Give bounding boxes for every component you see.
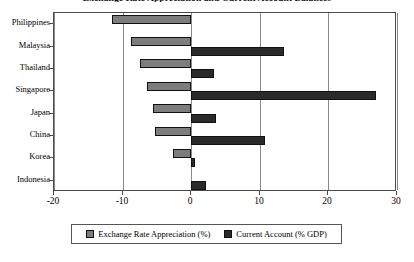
y-axis-category-labels: PhilippinesMalaysiaThailandSingaporeJapa… — [0, 12, 50, 191]
x-tick-10 — [259, 191, 260, 195]
bar-korea-series-1 — [191, 158, 195, 167]
bar-thailand-series-0 — [140, 59, 191, 68]
x-tick-label--20: -20 — [33, 196, 73, 207]
plot-area — [53, 12, 396, 191]
x-tick-label-10: 10 — [239, 196, 279, 207]
chart-title: Exchange Rate Appreciation and Current A… — [0, 0, 414, 2]
y-axis-label-korea: Korea — [0, 152, 50, 161]
x-tick-30 — [396, 191, 397, 195]
bar-thailand-series-1 — [191, 69, 214, 78]
y-axis-label-indonesia: Indonesia — [0, 175, 50, 184]
chart-legend: Exchange Rate Appreciation (%) Current A… — [71, 224, 342, 244]
bar-japan-series-0 — [153, 104, 191, 113]
x-tick--20 — [53, 191, 54, 195]
y-axis-label-thailand: Thailand — [0, 63, 50, 72]
x-tick-label-20: 20 — [307, 196, 347, 207]
legend-item-current-account: Current Account (% GDP) — [224, 229, 326, 239]
gridline-x-30 — [397, 13, 398, 190]
x-tick-label--10: -10 — [102, 196, 142, 207]
x-tick-20 — [327, 191, 328, 195]
y-axis-label-china: China — [0, 130, 50, 139]
bar-china-series-0 — [155, 127, 191, 136]
bar-singapore-series-1 — [191, 91, 376, 100]
y-axis-label-malaysia: Malaysia — [0, 41, 50, 50]
gridline-x-20 — [328, 13, 329, 190]
legend-label-series-0: Exchange Rate Appreciation (%) — [98, 229, 210, 239]
y-axis-label-japan: Japan — [0, 108, 50, 117]
bar-indonesia-series-1 — [191, 181, 206, 190]
x-tick-0 — [190, 191, 191, 195]
bar-korea-series-0 — [173, 149, 191, 158]
gridline-x-10 — [260, 13, 261, 190]
bar-malaysia-series-1 — [191, 47, 284, 56]
y-axis-label-singapore: Singapore — [0, 85, 50, 94]
gridline-x--10 — [123, 13, 124, 190]
bar-chart: Exchange Rate Appreciation and Current A… — [0, 0, 414, 262]
bar-philippines-series-0 — [112, 15, 191, 24]
gridline-x--20 — [54, 13, 55, 190]
legend-swatch-icon-series-1 — [224, 230, 232, 238]
bar-malaysia-series-0 — [131, 37, 191, 46]
x-tick-label-0: 0 — [170, 196, 210, 207]
legend-label-series-1: Current Account (% GDP) — [236, 229, 326, 239]
bar-china-series-1 — [191, 136, 265, 145]
x-tick-label-30: 30 — [376, 196, 414, 207]
legend-item-exchange-rate-appreciation: Exchange Rate Appreciation (%) — [86, 229, 210, 239]
x-tick--10 — [122, 191, 123, 195]
y-axis-label-philippines: Philippines — [0, 18, 50, 27]
bar-japan-series-1 — [191, 114, 216, 123]
legend-swatch-icon-series-0 — [86, 230, 94, 238]
bar-singapore-series-0 — [147, 82, 192, 91]
